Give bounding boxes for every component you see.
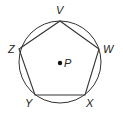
pentagon-diagram: V W X Y Z P	[0, 0, 123, 113]
vertex-label-x: X	[85, 97, 94, 109]
pentagon-vwxyz	[19, 21, 99, 95]
center-point-p	[58, 61, 62, 65]
vertex-label-w: W	[103, 43, 115, 55]
diagram-svg: V W X Y Z P	[0, 0, 123, 113]
center-label-p: P	[64, 57, 72, 69]
vertex-label-z: Z	[7, 43, 16, 55]
vertex-label-y: Y	[25, 97, 33, 109]
vertex-label-v: V	[56, 4, 65, 16]
